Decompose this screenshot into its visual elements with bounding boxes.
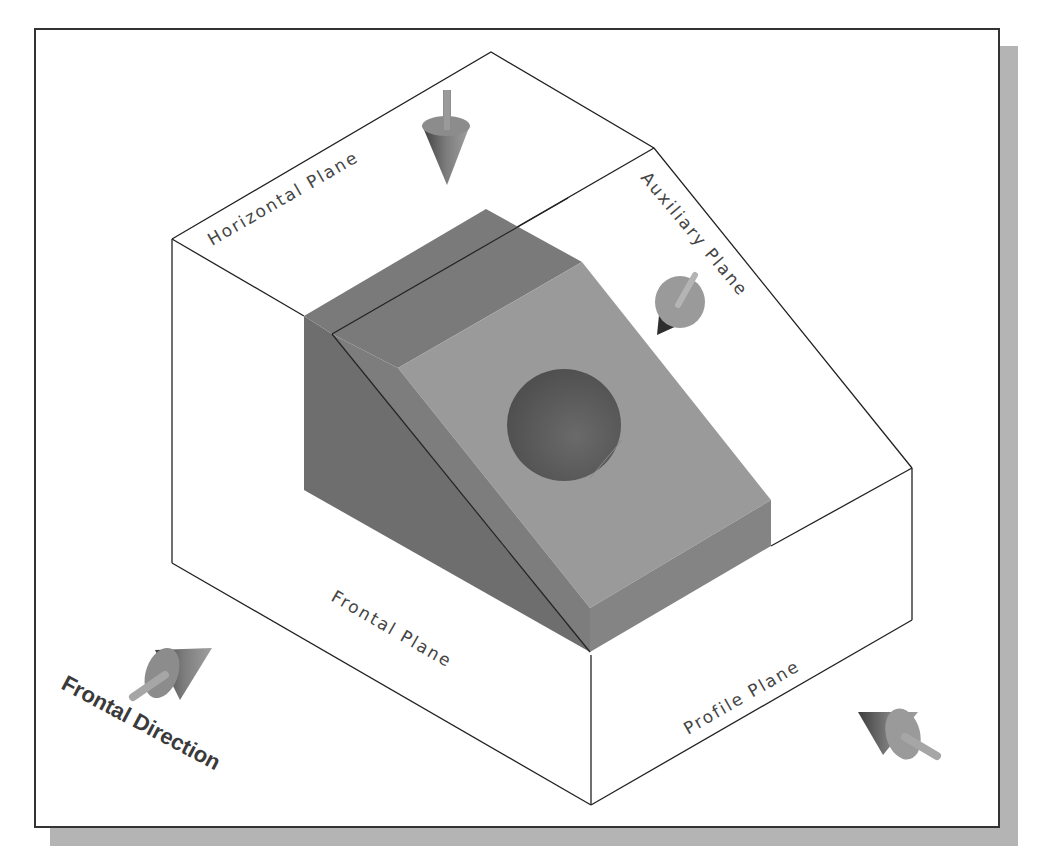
auxiliary-view-arrow-icon [655, 275, 705, 335]
horizontal-plane-label: Horizontal Plane [204, 147, 362, 250]
frontal-view-arrow-icon [133, 643, 212, 703]
diagram-stage: Horizontal Plane Auxiliary Plane Frontal… [0, 0, 1042, 860]
horizontal-view-arrow-icon [422, 90, 470, 185]
isometric-drawing: Horizontal Plane Auxiliary Plane Frontal… [0, 0, 1042, 860]
profile-view-arrow-icon [858, 704, 937, 763]
profile-plane-label: Profile Plane [680, 656, 803, 739]
wedge-object [304, 198, 771, 652]
frontal-plane-label: Frontal Plane [328, 586, 456, 671]
frontal-direction-label: Frontal Direction [58, 670, 225, 775]
hole [507, 369, 621, 481]
